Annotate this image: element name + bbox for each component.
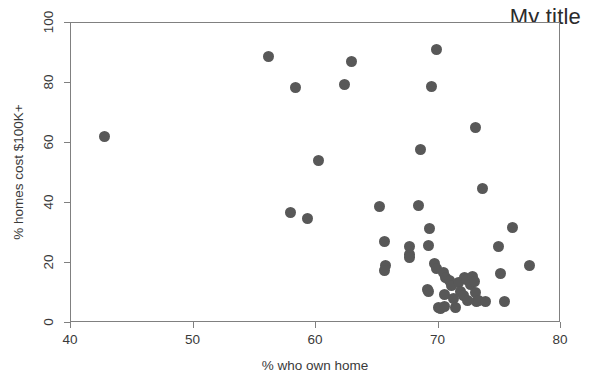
scatter-point [346,56,357,67]
x-tick-label: 40 [62,332,77,347]
scatter-point [379,265,390,276]
scatter-point [302,213,313,224]
y-tick-mark [64,322,70,323]
y-axis-label: % homes cost $100K+ [11,104,26,239]
scatter-point [499,296,510,307]
scatter-points-layer [71,23,559,321]
scatter-point [423,240,434,251]
scatter-point [477,183,488,194]
scatter-plot-figure: My title % homes cost $100K+ % who own h… [0,0,589,387]
scatter-point [469,276,480,287]
scatter-point [524,260,535,271]
y-tick-label: 80 [41,74,56,89]
x-tick-label: 80 [552,332,567,347]
scatter-point [290,82,301,93]
scatter-point [415,144,426,155]
x-tick-mark [70,322,71,328]
x-tick-label: 70 [430,332,445,347]
scatter-point [404,252,415,263]
x-tick-mark [560,322,561,328]
y-tick-label: 20 [41,254,56,269]
x-tick-mark [315,322,316,328]
scatter-point [313,155,324,166]
plot-panel [70,22,560,322]
scatter-point [495,268,506,279]
scatter-point [450,302,461,313]
scatter-point [426,81,437,92]
scatter-point [439,301,450,312]
x-tick-label: 50 [185,332,200,347]
y-tick-label: 0 [41,318,56,326]
scatter-point [423,286,434,297]
scatter-point [493,241,504,252]
x-tick-mark [438,322,439,328]
scatter-point [339,79,350,90]
scatter-point [379,236,390,247]
scatter-point [424,223,435,234]
scatter-point [480,296,491,307]
x-tick-mark [193,322,194,328]
scatter-point [507,222,518,233]
scatter-point [99,131,110,142]
scatter-point [413,200,424,211]
y-tick-label: 100 [41,11,56,34]
x-tick-label: 60 [307,332,322,347]
scatter-point [263,51,274,62]
scatter-point [374,201,385,212]
y-tick-label: 40 [41,194,56,209]
y-tick-label: 60 [41,134,56,149]
scatter-point [285,207,296,218]
scatter-point [431,44,442,55]
x-axis-label: % who own home [262,358,369,373]
scatter-point [470,122,481,133]
